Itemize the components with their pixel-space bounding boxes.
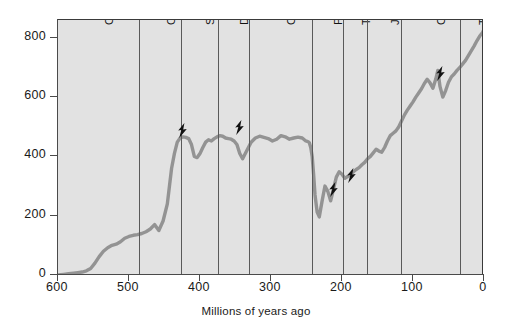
period-divider <box>367 20 368 274</box>
x-tick-label: 600 <box>34 280 80 294</box>
period-divider <box>401 20 402 274</box>
period-label-carboniferous: Carboniferous <box>285 20 297 25</box>
y-tick-label: 600 <box>24 89 46 102</box>
y-tick-label: 400 <box>24 148 46 161</box>
x-axis-title: Millions of years ago <box>0 305 512 317</box>
y-tick-label: 800 <box>24 30 46 43</box>
x-tick-label: 400 <box>176 280 222 294</box>
x-tick-label: 200 <box>318 280 364 294</box>
period-divider <box>460 20 461 274</box>
extinction-bolt-icon <box>177 123 188 138</box>
period-label-jurassic: Jurassic <box>389 20 401 25</box>
period-label-cambrian: Cambrian <box>103 20 115 25</box>
period-divider <box>181 20 182 274</box>
plot-inner: CambrianOrdovicianSilurianDevonianCarbon… <box>58 20 482 274</box>
y-tick <box>50 96 58 97</box>
period-divider <box>249 20 250 274</box>
y-tick <box>50 155 58 156</box>
y-tick <box>50 37 58 38</box>
period-label-silurian: Silurian <box>204 20 216 25</box>
period-divider <box>343 20 344 274</box>
extinction-bolt-icon <box>346 168 357 183</box>
x-tick-label: 500 <box>105 280 151 294</box>
extinction-bolt-icon <box>435 66 446 81</box>
extinction-bolt-icon <box>234 120 245 135</box>
period-label-tertiary: Tertiary <box>477 20 482 25</box>
period-divider <box>139 20 140 274</box>
y-tick-label: 200 <box>24 208 46 221</box>
diversity-curve <box>58 20 482 274</box>
y-tick <box>50 215 58 216</box>
y-axis-line <box>57 19 58 275</box>
extinction-bolt-icon <box>328 182 339 197</box>
period-divider <box>312 20 313 274</box>
period-divider <box>218 20 219 274</box>
period-label-cretaceous: Cretaceous <box>435 20 447 25</box>
x-tick-label: 300 <box>247 280 293 294</box>
plot-area: CambrianOrdovicianSilurianDevonianCarbon… <box>57 19 483 274</box>
x-tick-label: 100 <box>389 280 435 294</box>
y-tick-label: 0 <box>39 267 46 280</box>
x-tick-label: 0 <box>460 280 506 294</box>
period-label-ordovician: Ordovician <box>165 20 177 25</box>
chart-root: CambrianOrdovicianSilurianDevonianCarbon… <box>0 0 512 333</box>
